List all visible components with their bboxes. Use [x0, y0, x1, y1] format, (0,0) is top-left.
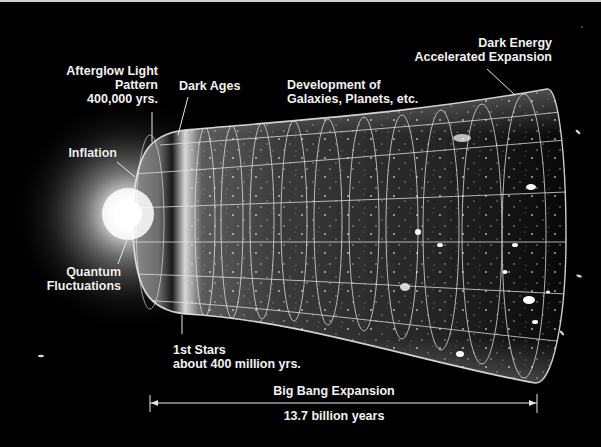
big-bang-diagram: Afterglow Light Pattern 400,000 yrs. Dar… — [0, 0, 601, 447]
quantum-fluctuations-label: Quantum Fluctuations — [20, 265, 121, 293]
afterglow-label: Afterglow Light Pattern 400,000 yrs. — [40, 64, 158, 106]
inflation-label: Inflation — [40, 146, 117, 160]
first-stars-label: 1st Stars about 400 million yrs. — [173, 343, 301, 371]
timeline-caption: Big Bang Expansion — [234, 384, 434, 398]
dark-ages-label: Dark Ages — [179, 79, 240, 93]
dark-energy-leader-line — [487, 69, 515, 95]
timeline-duration: 13.7 billion years — [234, 409, 434, 423]
development-label: Development of Galaxies, Planets, etc. — [287, 78, 418, 106]
dark-energy-label: Dark Energy Accelerated Expansion — [380, 36, 552, 64]
